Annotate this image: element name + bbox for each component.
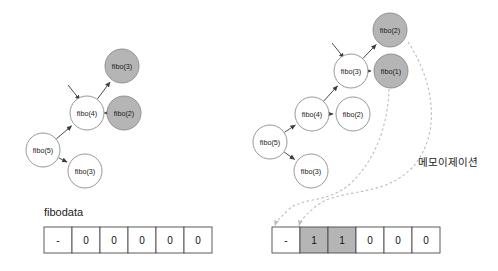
tree-node-fibo3: fibo(3) — [68, 154, 102, 188]
node-label: fibo(5) — [33, 146, 53, 155]
node-label: fibo(4) — [77, 109, 97, 118]
table-cell-value: 0 — [111, 235, 117, 246]
tree-edge — [284, 152, 294, 159]
table-cell-value: - — [56, 235, 59, 246]
diagram-canvas: fibo(5)fibo(4)fibo(3)fibo(3)fibo(2) fibo… — [0, 0, 498, 271]
tree-edge — [285, 125, 296, 132]
table-cell-value: 0 — [139, 235, 145, 246]
tree-node-fibo2: fibo(2) — [336, 97, 370, 131]
tree-node-fibo2: fibo(2) — [107, 96, 141, 130]
node-label: fibo(4) — [302, 110, 322, 119]
table-cell-value: 0 — [167, 235, 173, 246]
tree-node-fibo3: fibo(3) — [105, 49, 139, 83]
node-label: fibo(2) — [114, 109, 134, 118]
tree-node-fibo5: fibo(5) — [26, 133, 60, 167]
tree-node-fibo4: fibo(4) — [295, 97, 329, 131]
table-cell-value: - — [284, 235, 287, 246]
left-tree-nodes: fibo(5)fibo(4)fibo(3)fibo(3)fibo(2) — [26, 49, 141, 188]
left-fibodata-table: -00000 — [44, 227, 212, 253]
right-tree-nodes: fibo(5)fibo(4)fibo(3)fibo(2)fibo(3)fibo(… — [253, 13, 408, 188]
tree-node-fibo4: fibo(4) — [70, 96, 104, 130]
tree-node-fibo3: fibo(3) — [334, 54, 368, 88]
node-label: fibo(2) — [380, 26, 400, 35]
tree-node-fibo5: fibo(5) — [253, 125, 287, 159]
table-cell-value: 1 — [311, 235, 317, 246]
table-cell-value: 0 — [367, 235, 373, 246]
fibodata-label: fibodata — [44, 206, 84, 218]
table-cell-value: 0 — [195, 235, 201, 246]
current-call-pointer-arrow — [68, 85, 80, 100]
table-cell-value: 1 — [339, 235, 345, 246]
tree-node-fibo1: fibo(1) — [374, 54, 408, 88]
node-label: fibo(5) — [260, 138, 280, 147]
node-label: fibo(1) — [381, 67, 401, 76]
right-fibodata-table: -11000 — [272, 227, 440, 253]
current-call-pointer-arrow — [332, 43, 344, 58]
node-label: fibo(3) — [75, 167, 95, 176]
tree-node-fibo3: fibo(3) — [294, 154, 328, 188]
tree-node-fibo2: fibo(2) — [373, 13, 407, 47]
tree-edge — [97, 82, 110, 99]
node-label: fibo(3) — [341, 67, 361, 76]
node-label: fibo(2) — [343, 110, 363, 119]
tree-edge — [324, 86, 338, 101]
tree-edge — [363, 44, 376, 58]
table-cell-value: 0 — [423, 235, 429, 246]
node-label: fibo(3) — [301, 167, 321, 176]
figure-svg: fibo(5)fibo(4)fibo(3)fibo(3)fibo(2) fibo… — [0, 0, 498, 271]
memoization-annotation: 메모이제이션 — [418, 156, 478, 168]
tree-edge — [59, 158, 67, 162]
node-label: fibo(3) — [112, 62, 132, 71]
table-cell-value: 0 — [395, 235, 401, 246]
tree-edge — [56, 126, 71, 139]
table-cell-value: 0 — [83, 235, 89, 246]
